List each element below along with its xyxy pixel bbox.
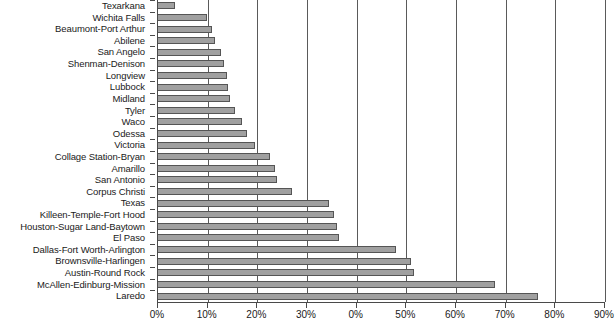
bar [158,26,212,33]
bar [158,223,337,230]
value-tick [604,303,605,308]
bar [158,14,207,21]
value-tick [207,303,208,308]
value-tick-label: 0% [348,309,362,320]
category-label: Shenman-Denison [0,58,150,70]
category-tick [150,0,157,12]
value-tick-label: 0% [150,309,164,320]
category-label: San Angelo [0,46,150,58]
gridline [605,0,606,302]
bar-row [158,163,605,175]
category-label: Austin-Round Rock [0,267,150,279]
category-label: Victoria [0,139,150,151]
bar-row [158,139,605,151]
category-label: Wichita Falls [0,12,150,24]
category-label: Abilene [0,35,150,47]
category-axis-labels: TexarkanaWichita FallsBeaumont-Port Arth… [0,0,150,302]
bar [158,234,339,241]
value-tick-label: 20% [246,309,266,320]
bar [158,153,270,160]
bar [158,84,228,91]
value-tick-label: 60% [445,309,465,320]
category-label: San Antonio [0,174,150,186]
bar-row [158,23,605,35]
value-tick [157,303,158,308]
category-label: Odessa [0,128,150,140]
value-tick [405,303,406,308]
category-tick [150,116,157,128]
category-tick [150,58,157,70]
category-axis-ticks [150,0,157,302]
bar [158,188,292,195]
bar-row [158,290,605,302]
bar-row [158,186,605,198]
category-tick [150,221,157,233]
bar-row [158,0,605,12]
bar-row [158,81,605,93]
category-label: Collage Station-Bryan [0,151,150,163]
value-tick [256,303,257,308]
category-tick [150,151,157,163]
value-tick-label: 50% [395,309,415,320]
bar-row [158,35,605,47]
category-label: Texarkana [0,0,150,12]
bar [158,37,215,44]
bar-row [158,116,605,128]
bar-row [158,232,605,244]
value-tick-label: 80% [544,309,564,320]
bar [158,95,230,102]
bar-chart: TexarkanaWichita FallsBeaumont-Port Arth… [0,0,615,335]
bar-row [158,174,605,186]
category-label: Lubbock [0,81,150,93]
value-tick [505,303,506,308]
bar-row [158,46,605,58]
bar [158,60,224,67]
value-tick-label: 70% [495,309,515,320]
bar [158,142,255,149]
category-tick [150,70,157,82]
bar [158,72,227,79]
bar [158,211,334,218]
category-label: Longview [0,70,150,82]
bar-row [158,267,605,279]
bar [158,130,247,137]
bar-row [158,151,605,163]
bar [158,281,495,288]
value-axis-ticks [157,303,604,308]
bar [158,2,175,9]
bar [158,107,235,114]
category-label: Brownsville-Harlingen [0,255,150,267]
category-tick [150,46,157,58]
category-label: El Paso [0,232,150,244]
value-tick-label: 30% [296,309,316,320]
value-tick [306,303,307,308]
category-label: Texas [0,197,150,209]
category-tick [150,186,157,198]
bar [158,118,242,125]
category-tick [150,290,157,302]
plot-area [157,0,605,303]
category-tick [150,81,157,93]
category-tick [150,232,157,244]
category-tick [150,163,157,175]
value-tick-label: 10% [197,309,217,320]
category-tick [150,209,157,221]
bar-row [158,255,605,267]
value-tick [356,303,357,308]
value-tick [554,303,555,308]
bar-row [158,93,605,105]
bar-row [158,12,605,24]
category-tick [150,267,157,279]
category-label: Beaumont-Port Arthur [0,23,150,35]
bar [158,200,329,207]
category-tick [150,279,157,291]
category-tick [150,23,157,35]
category-label: Amarillo [0,163,150,175]
category-label: McAllen-Edinburg-Mission [0,279,150,291]
category-label: Tyler [0,104,150,116]
bar [158,269,414,276]
value-axis-labels: 0%10%20%30%0%50%60%70%80%90% [157,309,604,325]
bar [158,176,277,183]
bar-row [158,279,605,291]
bar-series [158,0,605,302]
